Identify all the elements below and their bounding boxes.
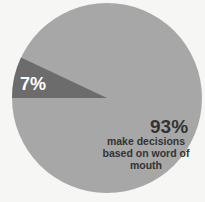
slice-93-description: make decisions based on word of mouth xyxy=(96,135,196,171)
pie-chart: 7% 93% make decisions based on word of m… xyxy=(0,0,205,202)
slice-7-label: 7% xyxy=(20,74,46,95)
pie-graphic xyxy=(0,0,205,202)
